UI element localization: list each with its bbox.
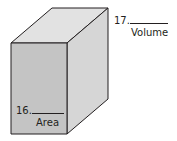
question-16-number: 16. xyxy=(16,105,32,116)
question-16-caption: Area xyxy=(36,117,59,128)
question-16-label: 16. xyxy=(16,105,64,116)
question-17-caption: Volume xyxy=(131,27,168,38)
question-17-number: 17. xyxy=(114,15,130,26)
question-17-label: 17. xyxy=(114,15,168,26)
answer-blank-16[interactable] xyxy=(32,113,64,114)
answer-blank-17[interactable] xyxy=(130,23,168,24)
